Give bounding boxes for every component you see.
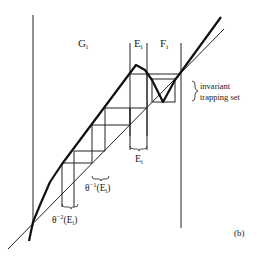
interval-label-e: Ei [135, 153, 143, 165]
preimage-label-1: θ−1(Ei) [85, 181, 110, 194]
region-label-e: Ei [134, 37, 143, 51]
trapping-set-label-line1: invariant [200, 81, 231, 91]
trapping-set-label-line2: trapping set [200, 92, 241, 102]
panel-label: (b) [234, 228, 245, 238]
cobweb-diagram: Gi Ei Fi invariant trapping set Ei θ−1(E… [0, 0, 263, 266]
map-curve [29, 17, 221, 241]
region-label-f: Fi [160, 37, 168, 51]
preimage-label-2: θ−2(Ei) [52, 213, 77, 226]
identity-diagonal [8, 29, 224, 249]
region-label-g: Gi [78, 37, 88, 51]
